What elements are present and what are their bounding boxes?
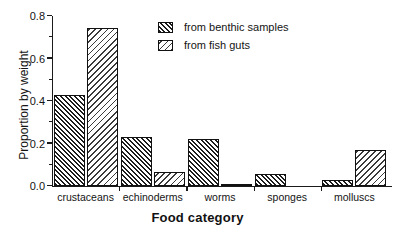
y-axis-title: Proportion by weight: [17, 17, 31, 193]
y-tick-label: 0.8: [30, 11, 45, 22]
y-tick-minor: [49, 121, 52, 122]
legend-label-benthic: from benthic samples: [184, 22, 289, 33]
legend: from benthic samples from fish guts: [158, 19, 289, 55]
x-tick-label-echinoderms: echinoderms: [123, 192, 183, 203]
bar-chart: 0.00.20.40.60.8 crustaceansechinodermswo…: [0, 0, 395, 234]
x-tick-label-worms: worms: [205, 192, 236, 203]
bar-crustaceans-benthic: [54, 95, 85, 186]
y-tick-major: [47, 142, 52, 143]
y-tick-label: 0.4: [30, 96, 45, 107]
x-tick-label-molluscs: molluscs: [334, 192, 375, 203]
legend-item-fish-guts: from fish guts: [158, 37, 289, 53]
bar-echinoderms-benthic: [121, 137, 152, 186]
y-tick-major: [47, 15, 52, 16]
legend-swatch-icon-benthic: [158, 22, 173, 33]
bar-crustaceans-fish-guts: [87, 28, 118, 186]
x-tick-label-crustaceans: crustaceans: [57, 192, 114, 203]
bar-molluscs-fish-guts: [355, 150, 386, 186]
bar-worms-benthic: [188, 139, 219, 186]
y-tick-minor: [49, 164, 52, 165]
y-tick-major: [47, 185, 52, 186]
x-tick-label-sponges: sponges: [267, 192, 307, 203]
legend-item-benthic: from benthic samples: [158, 19, 289, 35]
x-tick: [119, 186, 120, 191]
y-tick-minor: [49, 36, 52, 37]
x-tick: [186, 186, 187, 191]
y-tick-label: 0.6: [30, 53, 45, 64]
y-tick-label: 0.0: [30, 181, 45, 192]
x-axis-title: Food category: [0, 210, 395, 225]
y-tick-major: [47, 100, 52, 101]
y-tick-major: [47, 57, 52, 58]
legend-swatch-icon-fish-guts: [158, 40, 173, 51]
bar-molluscs-benthic: [322, 180, 353, 186]
bar-worms-fish-guts: [221, 184, 252, 186]
bar-sponges-benthic: [255, 174, 286, 186]
bar-echinoderms-fish-guts: [154, 172, 185, 186]
x-tick: [321, 186, 322, 191]
x-tick: [254, 186, 255, 191]
legend-label-fish-guts: from fish guts: [184, 40, 250, 51]
y-tick-minor: [49, 79, 52, 80]
y-tick-label: 0.2: [30, 138, 45, 149]
